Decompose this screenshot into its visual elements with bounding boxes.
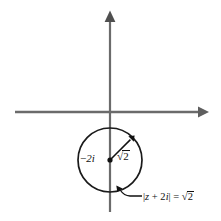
figure-canvas	[0, 0, 221, 221]
complex-plane-figure: −2i √2 |z + 2i| = √2	[0, 0, 221, 221]
real-axis-arrowhead-icon	[198, 107, 209, 118]
real-axis	[15, 107, 209, 118]
equation-label: |z + 2i| = √2	[143, 191, 194, 203]
equation-leader-line	[121, 191, 143, 197]
equation-radical-radicand: 2	[187, 191, 194, 203]
radical-sqrt2: √2	[117, 150, 130, 162]
radius-label: √2	[117, 150, 130, 162]
radical-radicand: 2	[122, 150, 130, 162]
center-label-value: 2i	[86, 152, 95, 164]
equation-radical-sqrt2: √2	[182, 191, 194, 203]
equation-equals: =	[171, 191, 182, 202]
equation-plus-term: + 2	[149, 191, 165, 202]
imaginary-axis-arrowhead-icon	[105, 11, 116, 23]
center-label: −2i	[80, 153, 95, 164]
equation-leader	[116, 186, 142, 196]
